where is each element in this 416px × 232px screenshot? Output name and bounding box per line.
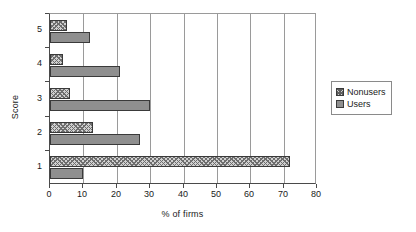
plot-area <box>49 13 316 184</box>
bar-users-score-5 <box>50 32 90 43</box>
bar-nonusers-score-1 <box>50 156 290 167</box>
x-axis-tick-label: 60 <box>234 189 264 199</box>
x-axis-tick <box>82 184 83 188</box>
x-axis-tick-label: 80 <box>301 189 331 199</box>
y-axis-tick-label: 1 <box>18 161 42 171</box>
y-axis-tick-label: 4 <box>18 58 42 68</box>
y-axis-tick <box>45 81 49 82</box>
bar-users-score-1 <box>50 168 83 179</box>
y-axis-tick <box>45 150 49 151</box>
chart-legend: NonusersUsers <box>331 81 392 115</box>
bar-users-score-3 <box>50 100 150 111</box>
x-axis-tick-label: 40 <box>168 189 198 199</box>
x-axis-tick-label: 30 <box>134 189 164 199</box>
y-axis-tick <box>45 47 49 48</box>
y-axis-tick-label: 2 <box>18 127 42 137</box>
x-axis-tick <box>183 184 184 188</box>
bar-users-score-4 <box>50 66 120 77</box>
bar-nonusers-score-4 <box>50 54 63 65</box>
bar-nonusers-score-3 <box>50 88 70 99</box>
bar-users-score-2 <box>50 134 140 145</box>
y-axis-tick-label: 5 <box>18 24 42 34</box>
y-axis-tick <box>45 13 49 14</box>
x-axis-tick-label: 70 <box>268 189 298 199</box>
y-axis-tick-label: 3 <box>18 93 42 103</box>
x-axis-tick-label: 50 <box>201 189 231 199</box>
y-axis-tick <box>45 116 49 117</box>
legend-item-nonusers[interactable]: Nonusers <box>336 86 386 98</box>
x-axis-tick-label: 10 <box>67 189 97 199</box>
x-axis-tick <box>49 184 50 188</box>
x-axis-tick <box>316 184 317 188</box>
bar-nonusers-score-5 <box>50 20 67 31</box>
x-axis-tick <box>216 184 217 188</box>
legend-label: Nonusers <box>347 87 386 97</box>
legend-label: Users <box>347 99 371 109</box>
x-axis-tick <box>116 184 117 188</box>
x-axis-tick-label: 0 <box>34 189 64 199</box>
legend-swatch-users <box>336 100 344 108</box>
x-axis-tick <box>149 184 150 188</box>
bar-nonusers-score-2 <box>50 122 93 133</box>
legend-item-users[interactable]: Users <box>336 98 386 110</box>
x-axis-title: % of firms <box>49 209 316 219</box>
bar-chart: Score 01020304050607080 12345 % of firms… <box>0 0 416 232</box>
x-axis-tick <box>249 184 250 188</box>
legend-swatch-nonusers <box>336 88 344 96</box>
x-axis-tick-label: 20 <box>101 189 131 199</box>
x-axis-tick <box>283 184 284 188</box>
